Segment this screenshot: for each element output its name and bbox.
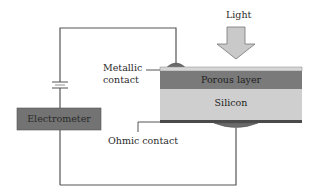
bottom-strip [160, 120, 302, 123]
metallic-contact-label-line2: contact [103, 74, 139, 85]
battery-icon [52, 82, 68, 88]
porous-layer-label: Porous layer [160, 74, 302, 85]
ohmic-contact-label: Ohmic contact [108, 135, 178, 146]
top-film [160, 67, 302, 71]
silicon-label: Silicon [160, 97, 302, 108]
ohmic-contact-leader [138, 122, 160, 132]
ohmic-contact-dome [214, 123, 258, 128]
electrometer-label: Electrometer [17, 113, 101, 124]
light-arrow-icon [217, 27, 255, 59]
light-label: Light [226, 9, 251, 20]
metallic-contact-label-line1: Metallic [103, 62, 142, 73]
